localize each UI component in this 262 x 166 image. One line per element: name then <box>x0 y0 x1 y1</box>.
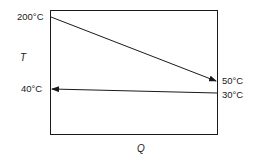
hot-stream-line <box>51 17 216 81</box>
hot-end-temp-label: 50°C <box>222 76 243 86</box>
x-axis-label: Q <box>137 144 145 154</box>
cold-end-temp-label: 40°C <box>21 84 42 94</box>
hot-start-temp-label: 200°C <box>17 12 44 22</box>
cold-start-temp-label: 30°C <box>222 90 243 100</box>
plot-frame <box>51 11 218 135</box>
cold-stream-line <box>52 89 217 93</box>
y-axis-label: T <box>20 53 26 63</box>
